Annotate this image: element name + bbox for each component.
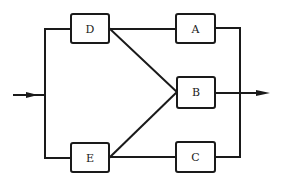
block-b-label: B <box>192 86 200 99</box>
block-diagram: D A B E C <box>0 0 286 183</box>
block-e: E <box>71 143 109 172</box>
d-to-b-line <box>110 29 177 92</box>
output-arrowhead <box>256 90 270 96</box>
block-c: C <box>176 142 215 172</box>
block-e-label: E <box>86 152 94 165</box>
block-b: B <box>177 77 215 108</box>
e-to-b-line <box>110 92 177 157</box>
block-d-label: D <box>86 23 95 36</box>
block-a-label: A <box>191 23 201 36</box>
block-a: A <box>176 14 215 43</box>
input-arrowhead <box>26 92 38 98</box>
block-c-label: C <box>191 151 199 164</box>
block-d: D <box>71 14 109 43</box>
